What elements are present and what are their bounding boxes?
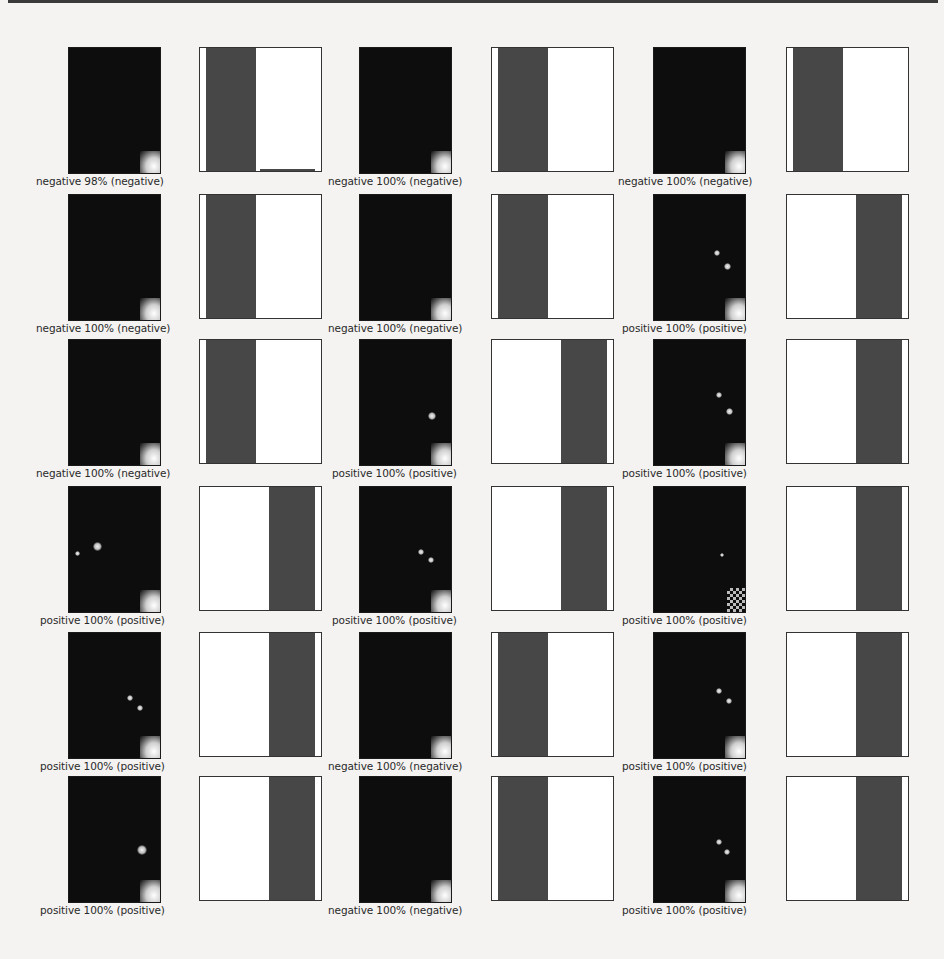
bright-region: [725, 151, 745, 173]
predicted-class-bar: [206, 195, 256, 318]
probability-bar-chart: [199, 776, 322, 901]
bright-region: [725, 880, 745, 902]
predicted-class-bar: [856, 633, 902, 756]
predicted-class-bar: [856, 487, 902, 610]
input-image-thumbnail: [654, 340, 745, 465]
predicted-class-bar: [856, 195, 902, 318]
bright-spot: [726, 698, 732, 704]
bright-spot: [418, 549, 424, 555]
bright-region: [431, 151, 451, 173]
probability-bar-chart: [491, 339, 614, 464]
bright-spot: [75, 551, 80, 556]
bright-region: [140, 590, 160, 612]
probability-bar-chart: [199, 632, 322, 757]
prediction-caption: positive 100% (positive): [40, 760, 165, 772]
input-image-thumbnail: [654, 633, 745, 758]
input-image-thumbnail: [654, 195, 745, 320]
prediction-caption: positive 100% (positive): [622, 467, 747, 479]
input-image-thumbnail: [654, 487, 745, 612]
prediction-caption: positive 100% (positive): [622, 760, 747, 772]
probability-bar-chart: [786, 47, 909, 172]
input-image-thumbnail: [360, 195, 451, 320]
probability-bar-chart: [199, 47, 322, 172]
bright-region: [140, 880, 160, 902]
bright-region: [140, 736, 160, 758]
input-image-thumbnail: [360, 340, 451, 465]
probability-bar-chart: [786, 776, 909, 901]
input-image-thumbnail: [360, 48, 451, 173]
bright-spot: [724, 849, 730, 855]
predicted-class-bar: [269, 633, 315, 756]
probability-bar-chart: [491, 47, 614, 172]
bright-region: [140, 443, 160, 465]
predicted-class-bar: [498, 48, 548, 171]
probability-bar-chart: [491, 486, 614, 611]
prediction-caption: positive 100% (positive): [40, 614, 165, 626]
probability-bar-chart: [199, 486, 322, 611]
input-image-thumbnail: [69, 48, 160, 173]
bright-spot: [716, 839, 722, 845]
input-image-thumbnail: [654, 48, 745, 173]
input-image-thumbnail: [654, 777, 745, 902]
bright-region: [140, 151, 160, 173]
bright-spot: [428, 557, 434, 563]
bright-region: [431, 736, 451, 758]
probability-bar-chart: [491, 776, 614, 901]
bright-region: [725, 736, 745, 758]
probability-bar-chart: [786, 486, 909, 611]
bright-spot: [724, 263, 731, 270]
input-image-thumbnail: [360, 487, 451, 612]
probability-bar-chart: [491, 632, 614, 757]
bright-spot: [716, 688, 722, 694]
bright-region: [727, 588, 745, 612]
prediction-caption: negative 100% (negative): [328, 175, 462, 187]
predicted-class-bar: [856, 340, 902, 463]
input-image-thumbnail: [69, 777, 160, 902]
probability-bar-chart: [786, 339, 909, 464]
predicted-class-bar: [561, 340, 607, 463]
prediction-caption: negative 100% (negative): [328, 322, 462, 334]
bright-spot: [714, 250, 720, 256]
prediction-caption: negative 100% (negative): [618, 175, 752, 187]
predicted-class-bar: [856, 777, 902, 900]
prediction-caption: positive 100% (positive): [332, 467, 457, 479]
minor-class-bar: [260, 169, 315, 171]
prediction-caption: negative 100% (negative): [328, 760, 462, 772]
probability-bar-chart: [786, 632, 909, 757]
input-image-thumbnail: [69, 340, 160, 465]
predicted-class-bar: [498, 195, 548, 318]
predicted-class-bar: [498, 633, 548, 756]
prediction-caption: positive 100% (positive): [622, 322, 747, 334]
bright-spot: [137, 705, 143, 711]
bright-spot: [137, 845, 147, 855]
bright-spot: [726, 408, 733, 415]
prediction-caption: positive 100% (positive): [40, 904, 165, 916]
bright-region: [725, 443, 745, 465]
predicted-class-bar: [206, 48, 256, 171]
input-image-thumbnail: [69, 633, 160, 758]
prediction-caption: positive 100% (positive): [332, 614, 457, 626]
predicted-class-bar: [561, 487, 607, 610]
prediction-caption: positive 100% (positive): [622, 904, 747, 916]
predicted-class-bar: [269, 487, 315, 610]
bright-region: [725, 298, 745, 320]
prediction-caption: negative 100% (negative): [36, 322, 170, 334]
bright-region: [431, 880, 451, 902]
prediction-caption: negative 100% (negative): [328, 904, 462, 916]
prediction-grid: negative 98% (negative)negative 100% (ne…: [0, 0, 944, 959]
probability-bar-chart: [786, 194, 909, 319]
prediction-caption: negative 100% (negative): [36, 467, 170, 479]
bright-region: [431, 590, 451, 612]
probability-bar-chart: [491, 194, 614, 319]
bright-region: [140, 298, 160, 320]
prediction-caption: positive 100% (positive): [622, 614, 747, 626]
bright-region: [431, 443, 451, 465]
predicted-class-bar: [498, 777, 548, 900]
bright-spot: [716, 392, 722, 398]
prediction-caption: negative 98% (negative): [36, 175, 164, 187]
bright-spot: [93, 542, 102, 551]
bright-spot: [720, 553, 724, 557]
input-image-thumbnail: [360, 633, 451, 758]
predicted-class-bar: [206, 340, 256, 463]
input-image-thumbnail: [69, 487, 160, 612]
